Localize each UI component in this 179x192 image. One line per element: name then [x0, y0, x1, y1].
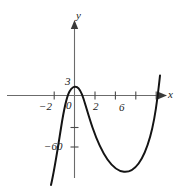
- x-label-neg2: −2: [39, 101, 52, 112]
- curve-group: [51, 76, 160, 186]
- x-axis-name: x: [168, 89, 173, 100]
- y-label-three: 3: [65, 76, 71, 87]
- coordinate-plot: [0, 0, 179, 192]
- cubic-curve: [51, 76, 160, 186]
- y-label-neg60: −60: [44, 141, 62, 152]
- x-label-six: 6: [119, 102, 125, 113]
- x-axis-arrow-icon: [158, 92, 167, 99]
- x-label-two: 2: [93, 101, 99, 112]
- graph-figure: −2 0 2 6 3 −60 y x: [0, 0, 179, 192]
- x-axis: [7, 92, 167, 99]
- x-label-zero: 0: [66, 100, 72, 111]
- y-axis-name: y: [76, 10, 81, 21]
- y-axis-arrow-icon: [71, 20, 78, 29]
